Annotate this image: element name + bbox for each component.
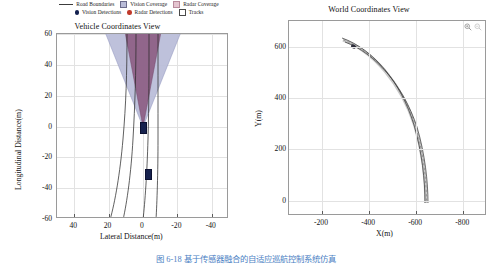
tick-x: [109, 214, 110, 217]
ytick-label: 400: [262, 92, 286, 101]
tick-x: [143, 214, 144, 217]
ytick-label: -20: [31, 152, 52, 161]
xtick-label: -40: [206, 221, 216, 230]
world-road-overlay: [289, 21, 486, 215]
world-coordinates-plot[interactable]: [288, 20, 486, 215]
legend-item-vision-detections: Vision Detections: [75, 9, 122, 16]
track-swatch-icon: [179, 9, 186, 16]
ytick-label: 200: [262, 144, 286, 153]
vehicle-coordinates-plot[interactable]: [56, 33, 228, 218]
tick-x: [463, 211, 464, 214]
tick-x: [369, 211, 370, 214]
legend-label: Radar Detections: [135, 9, 173, 16]
gridline-v: [416, 21, 417, 214]
ytick-label: 600: [262, 41, 286, 50]
legend-label: Vision Detections: [82, 9, 121, 16]
legend-item-road-boundaries: Road Boundaries: [59, 1, 114, 8]
vision-coverage-swatch-icon: [120, 1, 127, 8]
tick-x: [322, 211, 323, 214]
ytick-label: -60: [31, 214, 52, 223]
zoom-out-icon[interactable]: [474, 23, 482, 31]
gridline-h: [289, 98, 485, 99]
legend-label: Road Boundaries: [76, 1, 114, 8]
world-view-xlabel: X(m): [376, 229, 393, 238]
road-edge-line: [342, 38, 425, 203]
radar-coverage-swatch-icon: [173, 1, 180, 8]
xtick-label: -400: [361, 218, 375, 227]
legend-row: Road Boundaries Vision Coverage Radar Co…: [59, 1, 218, 8]
xtick-label: 20: [104, 221, 112, 230]
xtick-label: -20: [171, 221, 181, 230]
ytick-label: -40: [31, 183, 52, 192]
gridline-v: [463, 21, 464, 214]
ytick-label: 40: [34, 59, 52, 68]
gridline-h: [289, 149, 485, 150]
ytick-label: 0: [34, 121, 52, 130]
tick-x: [212, 214, 213, 217]
tick-x: [74, 214, 75, 217]
line-swatch-icon: [59, 4, 73, 5]
track-box-ego[interactable]: [140, 122, 147, 134]
xtick-label: 40: [69, 221, 77, 230]
legend-label: Vision Coverage: [130, 1, 167, 8]
legend: Road Boundaries Vision Coverage Radar Co…: [40, 1, 238, 16]
track-box-lead-vehicle[interactable]: [145, 169, 152, 180]
tick-x: [416, 211, 417, 214]
ytick-label: 20: [34, 90, 52, 99]
world-view-ylabel: Y(m): [254, 110, 263, 127]
tick-x: [177, 214, 178, 217]
figure-caption: 图 6-18 基于传感器融合的自适应巡航控制系统仿真: [0, 252, 492, 264]
legend-row: Vision Detections Radar Detections Track…: [75, 9, 204, 16]
vision-detection-dot-icon: [75, 10, 79, 14]
gridline-v: [369, 21, 370, 214]
ytick-label: 60: [34, 29, 52, 38]
legend-item-vision-coverage: Vision Coverage: [120, 1, 167, 8]
legend-label: Radar Coverage: [183, 1, 219, 8]
xtick-label: -800: [455, 218, 469, 227]
road-band: [343, 40, 426, 203]
gridline-h: [289, 47, 485, 48]
xtick-label: -600: [408, 218, 422, 227]
legend-label: Tracks: [189, 9, 204, 16]
gridline-h: [289, 201, 485, 202]
xtick-label: -200: [314, 218, 328, 227]
legend-item-radar-coverage: Radar Coverage: [173, 1, 219, 8]
world-view-title: World Coordinates View: [246, 5, 492, 14]
zoom-in-icon[interactable]: [464, 23, 472, 31]
lane-divider-line: [344, 40, 427, 203]
gridline-v: [322, 21, 323, 214]
vehicle-view-xlabel: Lateral Distance(m): [100, 232, 163, 241]
world-coordinates-panel: World Coordinates View: [246, 5, 492, 247]
radar-detection-dot-icon: [127, 10, 131, 14]
ytick-label: 0: [262, 195, 286, 204]
vehicle-coordinates-panel: Vehicle Coordinates View: [0, 22, 235, 247]
xtick-label: 0: [140, 221, 144, 230]
legend-item-radar-detections: Radar Detections: [127, 9, 172, 16]
plot-zoom-toolbar[interactable]: [464, 23, 482, 31]
legend-item-tracks: Tracks: [179, 9, 204, 16]
vehicle-view-ylabel: Longitudinal Distance(m): [14, 109, 23, 190]
